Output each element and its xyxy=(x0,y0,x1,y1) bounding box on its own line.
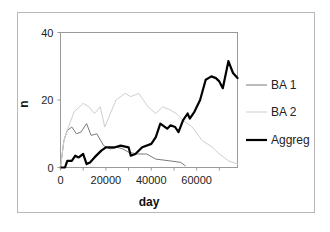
x-tick-label: 20000 xyxy=(91,174,122,186)
legend-label: BA 2 xyxy=(271,105,297,119)
y-axis-title: n xyxy=(17,100,31,107)
legend-label: BA 1 xyxy=(271,78,297,92)
x-tick-label: 60000 xyxy=(181,174,212,186)
x-axis-title: day xyxy=(139,195,160,209)
line-chart: 0200004000060000 02040 n day BA 1BA 2Agg… xyxy=(0,0,330,232)
x-tick-label: 40000 xyxy=(136,174,167,186)
legend-label: Aggreg xyxy=(271,133,310,147)
y-tick-label: 40 xyxy=(41,27,53,39)
x-tick-label: 0 xyxy=(57,174,63,186)
y-tick-label: 0 xyxy=(47,162,53,174)
y-tick-label: 20 xyxy=(41,94,53,106)
